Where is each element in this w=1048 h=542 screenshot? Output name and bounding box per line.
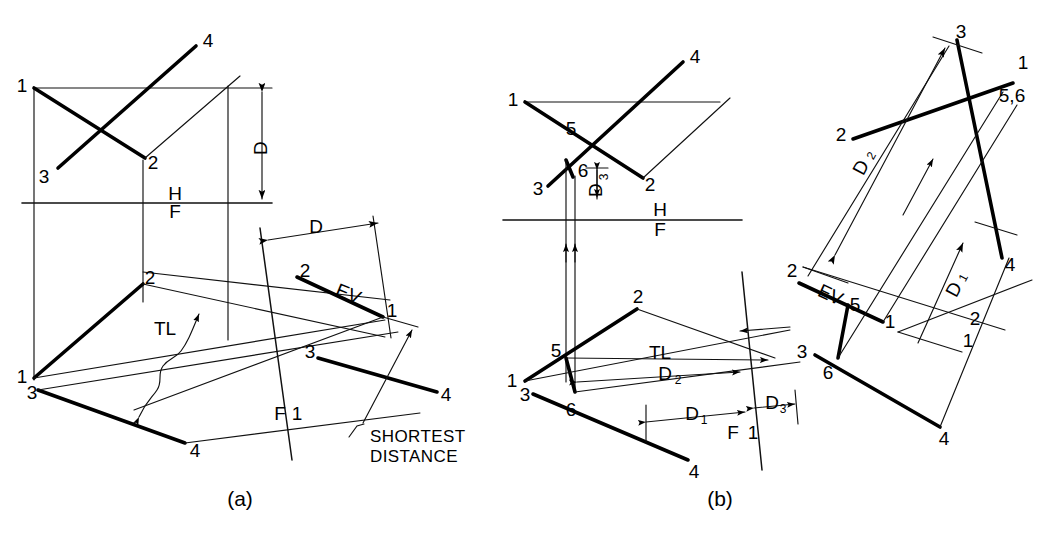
a-top-label-2: 2 xyxy=(148,152,159,173)
b-d3-top-subscript: 3 xyxy=(597,173,611,180)
b-aux2-d2-subscript: 2 xyxy=(864,149,880,162)
a-aux-label-4: 4 xyxy=(441,384,452,405)
a-figure-caption: (a) xyxy=(227,487,253,510)
b-top-label-3: 3 xyxy=(533,178,544,199)
a-front-label-1: 1 xyxy=(17,366,28,387)
dimension-d-aux-a xyxy=(268,223,378,240)
panel-b-aux-view-1 xyxy=(799,283,940,427)
panel-a-front-view xyxy=(34,272,420,443)
b-aux2-line-3-4 xyxy=(957,40,1002,258)
b-aux2-label-2: 2 xyxy=(836,124,847,145)
b-top-label-2: 2 xyxy=(645,174,656,195)
b-top-label-1: 1 xyxy=(508,89,519,110)
b-figure-caption: (b) xyxy=(707,487,733,510)
b-aux2-label-56: 5,6 xyxy=(999,85,1025,106)
figure-page: 1 3 4 2 H F D D 2 1 3 4 TL EV 2 1 3 4 F … xyxy=(0,0,1048,542)
a-ref-f1-one: 1 xyxy=(292,403,303,424)
line-3-4-front xyxy=(38,390,185,443)
panel-a xyxy=(22,46,437,460)
b-aux2-d1-label-group: D 1 xyxy=(941,271,971,300)
b-d3-top-letter: D xyxy=(585,183,606,197)
line-2-1-front xyxy=(34,284,143,378)
b-aux2-label-1: 1 xyxy=(1018,52,1029,73)
b-aux2-label-2b: 2 xyxy=(970,308,981,329)
a-aux-label-1: 1 xyxy=(387,300,398,321)
b-ref-f: F xyxy=(654,219,666,240)
b-d3-front-label-group: D 3 xyxy=(765,392,787,416)
a-shortest-line-2: DISTANCE xyxy=(370,447,458,466)
engineering-drawing-canvas: 1 3 4 2 H F D D 2 1 3 4 TL EV 2 1 3 4 F … xyxy=(0,0,1048,542)
b-segment-5-6-front xyxy=(566,358,575,392)
b-front-label-1: 1 xyxy=(507,370,518,391)
b-ref-h: H xyxy=(653,199,667,220)
b-aux2-label-3: 3 xyxy=(956,21,967,42)
b-front-label-3: 3 xyxy=(520,384,531,405)
a-ref-f1-f: F xyxy=(274,403,286,424)
b-top-label-6: 6 xyxy=(578,160,589,181)
panel-a-labels: 1 3 4 2 H F D D 2 1 3 4 TL EV 2 1 3 4 F … xyxy=(17,30,466,510)
a-tl-label: TL xyxy=(154,318,176,339)
a-top-label-4: 4 xyxy=(203,30,214,51)
line-3-4-top xyxy=(58,46,196,168)
line-3-4-aux xyxy=(318,358,437,392)
front-construction-3-long xyxy=(38,332,398,390)
b-d1-front-subscript: 1 xyxy=(701,413,708,427)
panel-b-top-view xyxy=(503,62,742,392)
a-front-label-2: 2 xyxy=(145,267,156,288)
b-aux1-label-3: 3 xyxy=(797,341,808,362)
b-aux2-mid-arrow xyxy=(903,159,933,215)
a-dimension-d-aux: D xyxy=(309,216,323,237)
b-front-label-6: 6 xyxy=(566,399,577,420)
b-aux2-line-2-1 xyxy=(853,83,1013,139)
b-d1-front-letter: D xyxy=(685,403,699,424)
a-ev-label: EV xyxy=(333,279,365,308)
b-ref-f1-f: F xyxy=(727,422,739,443)
b-d3-front-letter: D xyxy=(765,392,779,413)
a-front-label-3: 3 xyxy=(27,382,38,403)
b-top-label-5: 5 xyxy=(566,118,577,139)
b-d3-top-label-group: D 3 xyxy=(585,173,611,197)
b-aux1-label-6: 6 xyxy=(823,362,834,383)
b-aux1-label-5: 5 xyxy=(850,294,861,315)
b-top-label-4: 4 xyxy=(690,46,701,67)
b-aux2-d2-dimension xyxy=(835,48,945,255)
b-front-label-5: 5 xyxy=(551,340,562,361)
b-front-label-4: 4 xyxy=(689,461,700,482)
a-shortest-line-1: SHORTEST xyxy=(370,427,465,446)
b-aux2-d2-label-group: D 2 xyxy=(848,149,879,178)
b-front-construction-6 xyxy=(575,362,800,392)
a-front-label-4: 4 xyxy=(190,440,201,461)
b-aux2-d1-tick-bottom xyxy=(898,332,962,352)
panel-b-labels: 1 5 3 6 2 4 D 3 H F 2 5 1 3 6 4 TL D 2 xyxy=(507,21,1029,510)
a-aux-label-2: 2 xyxy=(300,260,311,281)
front-construction-1-long xyxy=(34,320,385,378)
shortest-distance-arrow xyxy=(363,330,412,423)
a-aux-label-3: 3 xyxy=(305,341,316,362)
b-aux1-line-3-4 xyxy=(815,355,940,427)
a-top-label-1: 1 xyxy=(17,75,28,96)
b-aux1-label-1: 1 xyxy=(885,311,896,332)
b-aux2-d1-subscript: 1 xyxy=(956,271,972,284)
panel-a-top-view xyxy=(22,46,272,380)
b-aux1-label-2: 2 xyxy=(787,260,798,281)
b-tl-label: TL xyxy=(649,342,671,363)
b-d3-right-tick xyxy=(795,390,798,424)
b-d3-front-subscript: 3 xyxy=(780,402,787,416)
b-d2-front-label-group: D 2 xyxy=(658,363,682,387)
shortest-distance-leader xyxy=(349,424,364,437)
b-d1-front-label-group: D 1 xyxy=(685,403,708,427)
b-d2-front-letter: D xyxy=(658,363,672,384)
f1-fold-line-a xyxy=(260,228,292,460)
b-ev-label: EV xyxy=(815,280,847,310)
line-1-2-top xyxy=(34,88,145,158)
b-ref-f1-one: 1 xyxy=(748,422,759,443)
b-aux-direction-top xyxy=(643,98,730,178)
b-d2-front-subscript: 2 xyxy=(675,373,682,387)
a-ref-f: F xyxy=(169,201,181,222)
b-line-3-4-front xyxy=(533,394,688,460)
b-front-label-2: 2 xyxy=(633,286,644,307)
b-aux2-label-4: 4 xyxy=(1005,254,1016,275)
b-aux2-label-1b: 1 xyxy=(963,330,974,351)
b-aux1-label-4: 4 xyxy=(939,428,950,449)
a-dimension-d-top: D xyxy=(250,141,271,155)
